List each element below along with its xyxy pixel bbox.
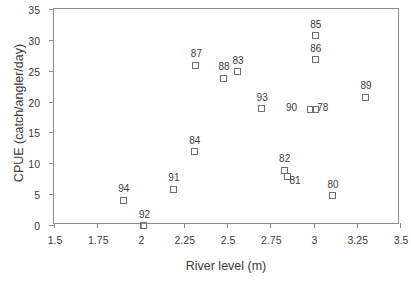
x-axis-tick: 2.5: [227, 223, 228, 228]
x-axis-tick: 3: [314, 223, 315, 228]
x-axis-tick: 3.5: [400, 223, 401, 228]
data-point-label: 89: [360, 81, 371, 91]
y-axis-tick-label: 0: [34, 221, 40, 232]
data-point-label: 86: [310, 44, 321, 54]
y-axis-tick-label: 5: [34, 190, 40, 201]
data-point-marker: [192, 62, 199, 69]
x-axis-title: River level (m): [53, 259, 399, 273]
x-axis-tick-label: 3.25: [348, 235, 368, 246]
x-axis-tick: 1.5: [54, 223, 55, 228]
y-axis-tick: 30: [49, 40, 54, 41]
y-axis-tick: 20: [49, 102, 54, 103]
data-point-label: 84: [189, 136, 200, 146]
y-axis-tick-label: 20: [28, 97, 40, 108]
data-point-marker: [120, 197, 127, 204]
data-point-marker: [234, 68, 241, 75]
y-axis-tick-label: 25: [28, 66, 40, 77]
plot-area: 05101520253035 1.51.7522.252.52.7533.253…: [53, 8, 399, 224]
x-axis-tick: 1.75: [97, 223, 98, 228]
y-axis-tick-label: 15: [28, 128, 40, 139]
x-axis-tick: 2.75: [270, 223, 271, 228]
x-axis-tick: 2.25: [184, 223, 185, 228]
data-point-marker: [362, 94, 369, 101]
x-axis-tick-label: 2.25: [175, 235, 195, 246]
data-point-label: 90: [286, 103, 297, 113]
data-point-marker: [258, 105, 265, 112]
data-point-label: 78: [317, 103, 328, 113]
y-axis-tick-label: 10: [28, 159, 40, 170]
data-point-marker: [140, 222, 147, 229]
data-point-marker: [312, 56, 319, 63]
y-axis-tick: 5: [49, 194, 54, 195]
x-axis-tick-label: 2.75: [261, 235, 281, 246]
x-axis-tick-label: 2.5: [221, 235, 236, 246]
data-point-label: 83: [232, 56, 243, 66]
x-axis-tick: 3.25: [357, 223, 358, 228]
data-point-label: 93: [257, 93, 268, 103]
data-point-label: 80: [328, 180, 339, 190]
data-point-label: 87: [191, 49, 202, 59]
data-point-label: 88: [219, 62, 230, 72]
y-axis-tick: 25: [49, 71, 54, 72]
scatter-chart-figure: 05101520253035 1.51.7522.252.52.7533.253…: [0, 0, 411, 284]
y-axis-tick: 35: [49, 9, 54, 10]
x-axis-tick-label: 3.5: [394, 235, 409, 246]
x-axis-tick-label: 2: [139, 235, 145, 246]
data-point-label: 85: [310, 20, 321, 30]
data-point-label: 91: [168, 173, 179, 183]
y-axis-tick-label: 35: [28, 5, 40, 16]
data-point-label: 82: [279, 154, 290, 164]
data-point-marker: [312, 32, 319, 39]
data-point-marker: [170, 186, 177, 193]
data-point-marker: [329, 192, 336, 199]
x-axis-tick-label: 3: [312, 235, 318, 246]
x-axis-tick-label: 1.5: [48, 235, 63, 246]
data-point-label: 92: [139, 210, 150, 220]
x-axis-tick-label: 1.75: [88, 235, 108, 246]
y-axis-title: CPUE (catch/angler/day): [12, 0, 26, 228]
y-axis-tick: 15: [49, 132, 54, 133]
data-point-label: 81: [290, 176, 301, 186]
y-axis-tick-label: 30: [28, 36, 40, 47]
data-point-marker: [191, 148, 198, 155]
data-point-label: 94: [118, 184, 129, 194]
y-axis-tick: 10: [49, 163, 54, 164]
data-point-marker: [220, 75, 227, 82]
